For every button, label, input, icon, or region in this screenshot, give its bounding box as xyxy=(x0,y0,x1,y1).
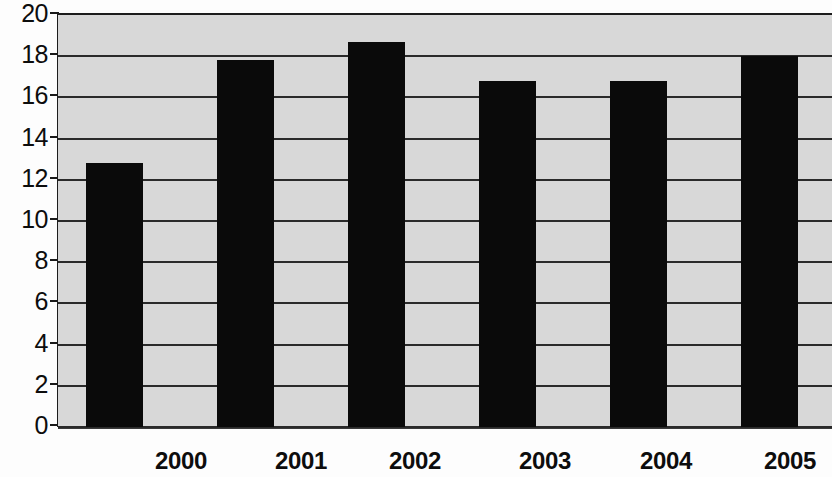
y-tick-label: 4 xyxy=(0,330,48,355)
bar-2001 xyxy=(217,60,274,427)
x-tick-label-2003: 2003 xyxy=(519,448,571,474)
y-axis: 02468101214161820 xyxy=(0,0,52,440)
y-tick-label: 10 xyxy=(0,207,48,232)
bar-2002 xyxy=(348,42,405,427)
gridline xyxy=(58,220,832,222)
x-tick-label-2004: 2004 xyxy=(640,448,692,474)
gridline xyxy=(58,138,832,140)
x-tick-label-2005: 2005 xyxy=(764,448,816,474)
gridline xyxy=(58,261,832,263)
bar-chart: 02468101214161820 2000200120022003200420… xyxy=(0,0,832,477)
gridline xyxy=(58,302,832,304)
x-tick-label-2001: 2001 xyxy=(275,448,327,474)
gridline xyxy=(58,426,832,428)
gridline xyxy=(58,385,832,387)
y-tick-label: 8 xyxy=(0,248,48,273)
y-tick-label: 20 xyxy=(0,1,48,26)
y-tick-label: 6 xyxy=(0,289,48,314)
bar-2005 xyxy=(741,56,798,427)
x-tick-label-2000: 2000 xyxy=(155,448,207,474)
gridline xyxy=(58,96,832,98)
y-tick-label: 18 xyxy=(0,42,48,67)
x-axis: 200020012002200320042005 xyxy=(0,436,832,477)
y-tick-label: 14 xyxy=(0,124,48,149)
y-tick-label: 2 xyxy=(0,371,48,396)
plot-area xyxy=(58,13,832,427)
bar-2004 xyxy=(610,81,667,427)
y-tick-label: 16 xyxy=(0,83,48,108)
gridline xyxy=(58,179,832,181)
bar-2003 xyxy=(479,81,536,427)
gridline xyxy=(58,55,832,57)
y-tick-label: 12 xyxy=(0,165,48,190)
x-tick-label-2002: 2002 xyxy=(389,448,441,474)
bar-2000 xyxy=(86,163,143,427)
gridline xyxy=(58,344,832,346)
y-tick-label: 0 xyxy=(0,413,48,438)
